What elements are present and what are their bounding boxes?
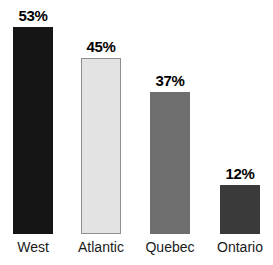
bar-quebec[interactable]	[150, 92, 190, 234]
bar-value-label-west: 53%	[18, 8, 47, 23]
bar-atlantic[interactable]	[81, 58, 121, 234]
bar-group-atlantic: 45%	[81, 0, 121, 234]
bar-value-label-ontario: 12%	[225, 166, 254, 181]
plot-area: 53% 45% 37% 12%	[0, 0, 273, 234]
category-label-west: West	[3, 240, 63, 254]
category-label-quebec: Quebec	[140, 240, 200, 254]
bar-group-west: 53%	[13, 0, 53, 234]
bar-group-quebec: 37%	[150, 0, 190, 234]
bar-value-label-atlantic: 45%	[86, 39, 115, 54]
bar-west[interactable]	[13, 27, 53, 234]
bar-value-label-quebec: 37%	[155, 73, 184, 88]
category-label-ontario: Ontario	[210, 240, 270, 254]
category-label-atlantic: Atlantic	[71, 240, 131, 254]
bar-chart: 53% 45% 37% 12% West Atlantic Quebec Ont…	[0, 0, 273, 265]
bar-group-ontario: 12%	[220, 0, 260, 234]
bar-ontario[interactable]	[220, 185, 260, 234]
